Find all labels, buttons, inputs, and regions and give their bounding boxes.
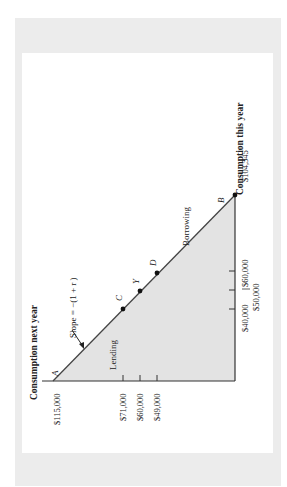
x-tick-label-50000: $50,000	[251, 283, 261, 311]
point-c	[121, 307, 126, 312]
slope-label: Slope = −(1 + r )	[68, 278, 78, 338]
y-axis-title: Consumption next year	[29, 304, 39, 400]
y-tick-label-49000: $49,000	[152, 393, 162, 421]
x-tick-label-104545: $104,545	[240, 150, 250, 182]
point-d-label: D	[148, 259, 158, 267]
intertemporal-budget-chart: Consumption next year Consumption this y…	[0, 0, 287, 487]
y-tick-label-60000: $60,000	[135, 393, 145, 421]
point-c-label: C	[114, 294, 124, 301]
slope-arrowhead-icon	[79, 342, 84, 349]
x-tick-label-60000: $60,000	[240, 259, 250, 287]
lending-label: Lending	[108, 340, 118, 370]
x-tick-label-40000: $40,000	[240, 304, 250, 332]
y-tick-label-115000: $115,000	[52, 393, 62, 425]
point-y	[138, 289, 143, 294]
y-tick-label-71000: $71,000	[118, 393, 128, 421]
point-a-label: A	[50, 370, 60, 377]
point-b-label: B	[216, 197, 226, 203]
point-d	[155, 271, 160, 276]
borrowing-label: Borrowing	[181, 207, 191, 246]
point-y-label: Y	[131, 278, 141, 284]
